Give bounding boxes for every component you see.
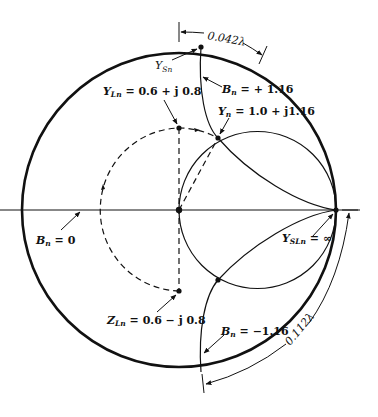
bottom-dimension-arc-upper (309, 213, 349, 323)
b-zero-leader (61, 212, 80, 230)
center-point (176, 207, 182, 213)
top-distance-label: 0.042λ (206, 29, 246, 48)
z-ln-point (176, 288, 181, 293)
y-n-conjugate-point (215, 277, 220, 282)
top-dimension-arrow-left (181, 32, 204, 33)
y-sn-label: YSn (155, 59, 172, 74)
b-positive-label: Bn = + 1.16 (221, 83, 294, 97)
y-n-label: Yn = 1.0 + j1.16 (218, 105, 315, 119)
z-ln-label: ZLn = 0.6 − j 0.8 (106, 314, 206, 328)
dashed-arc-arrow-top-icon (194, 128, 200, 132)
bottom-dimension-tick-bottom (202, 374, 204, 393)
y-sln-point (333, 207, 338, 212)
z-ln-leader (157, 295, 176, 312)
top-dimension-arrow-right (243, 43, 262, 55)
y-ln-leader (164, 100, 177, 124)
y-ln-label: YLn = 0.6 + j 0.8 (103, 85, 202, 99)
y-ln-point (176, 125, 181, 130)
susceptance-arc-positive (200, 47, 336, 210)
top-dimension-tick-right (259, 46, 267, 64)
bottom-dimension-arc-lower (206, 344, 286, 384)
y-n-point (215, 135, 220, 140)
y-sn-point (198, 44, 203, 49)
center-to-yn-dashed-line (179, 138, 218, 210)
b-pos-leader (203, 77, 222, 87)
smith-chart-diagram: 0.042λ 0.112λ YSn Bn = + 1.16 YLn = 0.6 … (0, 0, 378, 417)
y-n-leader (220, 118, 229, 134)
y-sln-label: YSLn = ∞ (282, 232, 332, 246)
b-zero-label: Bn = 0 (35, 234, 76, 248)
b-negative-label: Bn = −1.16 (220, 325, 289, 339)
